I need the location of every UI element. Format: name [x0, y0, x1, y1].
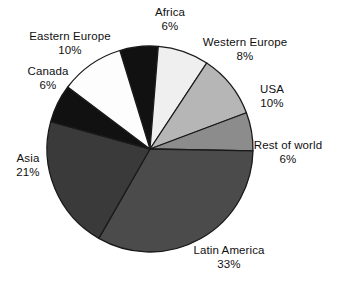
- pie-slice-group: [47, 46, 253, 252]
- pie-label-usa-percent: 10%: [260, 97, 284, 111]
- pie-label-rest-of-world-percent: 6%: [254, 153, 322, 167]
- pie-label-western-europe-percent: 8%: [203, 50, 287, 64]
- pie-label-latin-america: Latin America 33%: [194, 244, 265, 271]
- pie-label-asia-percent: 21%: [16, 166, 39, 180]
- pie-label-canada: Canada 6%: [28, 65, 69, 92]
- pie-label-western-europe: Western Europe 8%: [203, 36, 287, 63]
- pie-label-eastern-europe-percent: 10%: [29, 44, 110, 58]
- pie-label-western-europe-name: Western Europe: [203, 36, 287, 50]
- pie-label-eastern-europe-name: Eastern Europe: [29, 30, 110, 44]
- pie-label-usa-name: USA: [260, 83, 284, 97]
- pie-chart-figure: Africa 6% Western Europe 8% USA 10% Rest…: [0, 0, 342, 286]
- pie-label-canada-name: Canada: [28, 65, 69, 79]
- pie-label-rest-of-world-name: Rest of world: [254, 139, 322, 153]
- pie-label-africa: Africa 6%: [155, 6, 185, 33]
- pie-label-africa-name: Africa: [155, 6, 185, 20]
- pie-label-latin-america-percent: 33%: [194, 258, 265, 272]
- pie-label-eastern-europe: Eastern Europe 10%: [29, 30, 110, 57]
- pie-label-usa: USA 10%: [260, 83, 284, 110]
- pie-label-rest-of-world: Rest of world 6%: [254, 139, 322, 166]
- pie-label-africa-percent: 6%: [155, 20, 185, 34]
- pie-label-canada-percent: 6%: [28, 79, 69, 93]
- pie-label-asia-name: Asia: [16, 152, 39, 166]
- pie-label-asia: Asia 21%: [16, 152, 39, 179]
- pie-label-latin-america-name: Latin America: [194, 244, 265, 258]
